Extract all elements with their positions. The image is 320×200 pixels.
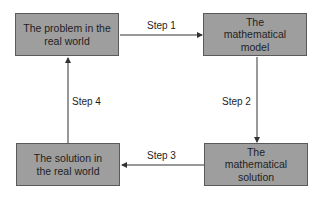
edge-label-step-2: Step 2 (222, 96, 251, 107)
node-label: The mathematical model (215, 16, 295, 54)
edge-label-step-4: Step 4 (72, 96, 101, 107)
node-real-solution: The solution in the real world (16, 143, 120, 186)
node-real-problem: The problem in the real world (15, 13, 119, 56)
node-label: The mathematical solution (216, 146, 296, 184)
edge-label-step-1: Step 1 (147, 20, 176, 31)
node-label: The problem in the real world (16, 22, 118, 47)
node-math-solution: The mathematical solution (204, 143, 308, 186)
node-math-model: The mathematical model (203, 13, 307, 56)
node-label: The solution in the real world (27, 152, 109, 177)
edge-label-step-3: Step 3 (147, 150, 176, 161)
